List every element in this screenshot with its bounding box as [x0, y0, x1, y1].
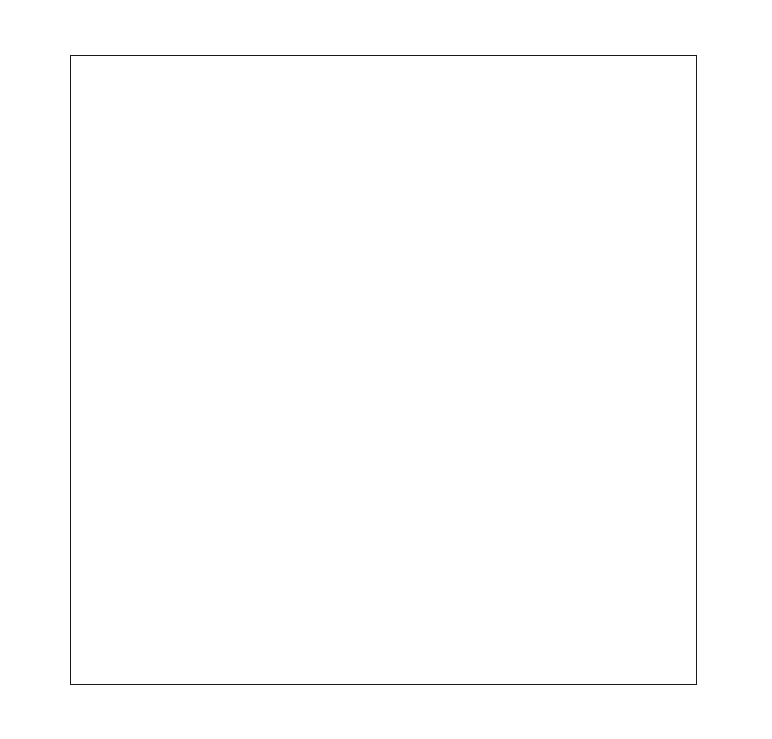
graph-paper-sheet — [0, 0, 772, 739]
plot-frame — [70, 55, 697, 685]
probability-grid — [71, 56, 696, 684]
